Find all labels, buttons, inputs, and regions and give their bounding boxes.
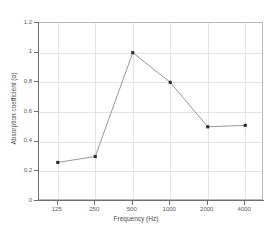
chart-figure: Absorption coefficient (α) 00.20.40.60.8… xyxy=(0,0,272,234)
data-series-absorption-coefficient xyxy=(39,23,264,201)
x-tick-label: 125 xyxy=(52,206,62,213)
x-tick-mark xyxy=(94,201,95,205)
x-tick-label: 250 xyxy=(89,206,99,213)
y-tick-label: 1 xyxy=(29,48,32,55)
y-axis-line xyxy=(38,22,39,201)
y-tick-label: 1.2 xyxy=(24,19,32,26)
y-tick-label: 0.8 xyxy=(24,78,32,85)
data-point-marker xyxy=(169,81,172,84)
x-tick-label: 1000 xyxy=(163,206,176,213)
x-axis-line xyxy=(38,200,264,201)
x-tick-label: 500 xyxy=(127,206,137,213)
y-tick-label: 0.4 xyxy=(24,137,32,144)
x-tick-label: 4000 xyxy=(238,206,251,213)
x-tick-mark xyxy=(207,201,208,205)
plot-area xyxy=(38,22,263,200)
x-axis-label: Frequency (Hz) xyxy=(0,215,272,222)
x-tick-mark xyxy=(244,201,245,205)
x-tick-mark xyxy=(169,201,170,205)
x-tick-label: 2000 xyxy=(200,206,213,213)
data-point-marker xyxy=(94,155,97,158)
data-point-marker xyxy=(131,51,134,54)
series-line xyxy=(58,53,246,163)
data-point-marker xyxy=(244,124,247,127)
y-tick-label: 0.2 xyxy=(24,167,32,174)
x-tick-mark xyxy=(132,201,133,205)
data-point-marker xyxy=(56,161,59,164)
data-point-marker xyxy=(206,125,209,128)
y-tick-label: 0 xyxy=(29,197,32,204)
x-tick-mark xyxy=(57,201,58,205)
y-tick-label: 0.6 xyxy=(24,108,32,115)
